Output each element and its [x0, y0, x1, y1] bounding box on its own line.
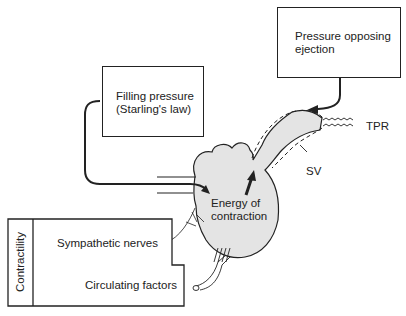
sv-label: SV	[306, 165, 321, 178]
contractility-box	[0, 0, 406, 316]
energy-label-1: Energy of	[211, 197, 260, 210]
contractility-title: Contractility	[14, 232, 27, 292]
sympathetic-nerves-label: Sympathetic nerves	[57, 237, 158, 250]
circulating-factors-label: Circulating factors	[85, 279, 177, 292]
tpr-label: TPR	[366, 120, 389, 133]
energy-label-2: contraction	[211, 210, 267, 223]
